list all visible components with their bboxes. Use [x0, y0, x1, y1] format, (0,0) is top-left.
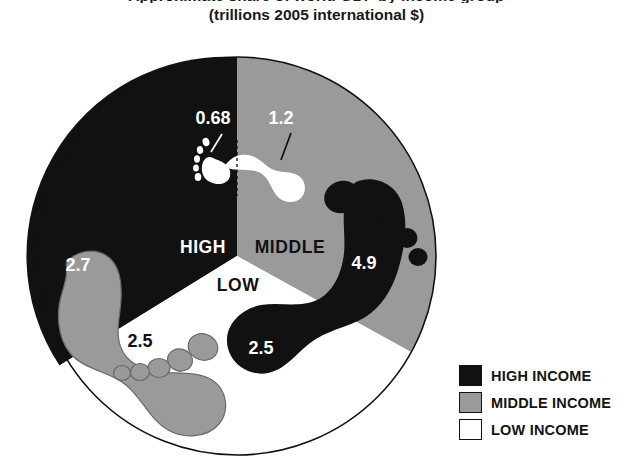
- legend-item-low[interactable]: LOW INCOME: [459, 416, 633, 443]
- legend-swatch-middle-icon: [459, 392, 482, 413]
- value-label-high-large-heel: 2.5: [248, 338, 273, 358]
- legend-swatch-high-icon: [459, 365, 482, 386]
- legend-label-high: HIGH INCOME: [491, 368, 591, 384]
- legend-label-low: LOW INCOME: [491, 422, 589, 438]
- value-label-high-large-ball: 4.9: [351, 253, 376, 273]
- value-label-middle-small: 1.2: [268, 108, 293, 128]
- slice-label-high: HIGH: [180, 237, 226, 257]
- legend-item-middle[interactable]: MIDDLE INCOME: [459, 389, 633, 416]
- value-label-high-small: 0.68: [195, 108, 230, 128]
- slice-label-middle: MIDDLE: [255, 237, 326, 257]
- value-label-middle-large-ball: 2.5: [127, 331, 152, 351]
- legend: HIGH INCOME MIDDLE INCOME LOW INCOME: [459, 362, 633, 443]
- value-label-middle-large-heel: 2.7: [65, 255, 90, 275]
- legend-swatch-low-icon: [459, 419, 482, 440]
- legend-label-middle: MIDDLE INCOME: [491, 395, 611, 411]
- slice-label-low: LOW: [217, 275, 260, 295]
- legend-item-high[interactable]: HIGH INCOME: [459, 362, 633, 389]
- figure-container: Approximate share of world GDP by income…: [0, 0, 633, 470]
